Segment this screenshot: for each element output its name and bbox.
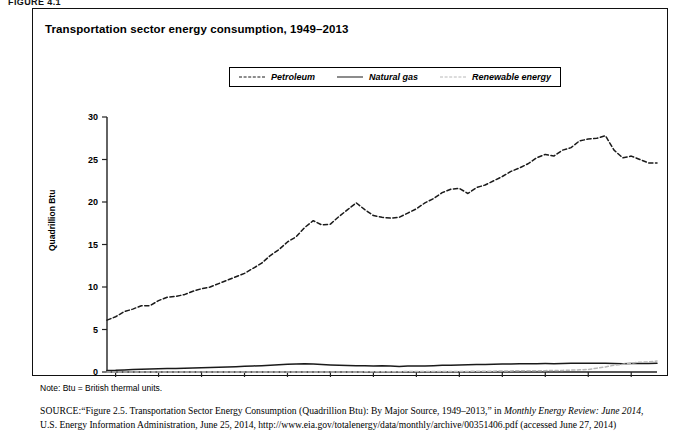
x-tick-label: 1965	[234, 380, 254, 381]
legend-item-natural-gas: Natural gas	[337, 72, 418, 82]
x-tick-label: 1950	[106, 380, 126, 381]
x-tick-label: 1970	[277, 380, 297, 381]
y-tick-label: 5	[93, 325, 98, 335]
y-axis-title: Quadrillion Btu	[47, 190, 57, 251]
x-tick-label: 1955	[149, 380, 169, 381]
legend-swatch-petroleum-icon	[239, 73, 265, 81]
legend-label-petroleum: Petroleum	[271, 72, 315, 82]
figure-box: Transportation sector energy consumption…	[32, 8, 668, 376]
series-line-petroleum	[107, 136, 657, 320]
y-tick-label: 20	[88, 197, 98, 207]
x-tick-label: 1995	[492, 380, 512, 381]
legend-swatch-renewable-energy-icon	[440, 73, 466, 81]
y-tick-label: 10	[88, 282, 98, 292]
legend-label-renewable-energy: Renewable energy	[472, 72, 551, 82]
x-tick-label: 2000	[535, 380, 555, 381]
x-tick-label: 2005	[578, 380, 598, 381]
legend-swatch-natural-gas-icon	[337, 73, 363, 81]
chart-source: SOURCE:“Figure 2.5. Transportation Secto…	[40, 404, 652, 431]
y-tick-label: 30	[88, 112, 98, 122]
figure-label: FIGURE 4.1	[8, 0, 61, 7]
x-tick-label: 1990	[449, 380, 469, 381]
x-tick-label: 2010	[621, 380, 641, 381]
chart-legend: Petroleum Natural gas Renewable energy	[229, 67, 561, 87]
source-text-1: “Figure 2.5. Transportation Sector Energ…	[81, 405, 504, 416]
y-tick-label: 15	[88, 240, 98, 250]
source-prefix: SOURCE:	[40, 405, 81, 416]
x-tick-label: 1960	[192, 380, 212, 381]
x-tick-label: 1975	[320, 380, 340, 381]
y-tick-label: 25	[88, 155, 98, 165]
legend-label-natural-gas: Natural gas	[369, 72, 418, 82]
chart-svg: 0510152025301950195519601965197019751980…	[61, 101, 661, 381]
plot-area: Quadrillion Btu 051015202530195019551960…	[61, 101, 661, 381]
chart-note: Note: Btu = British thermal units.	[40, 383, 162, 393]
x-tick-label: 1985	[406, 380, 426, 381]
chart-title: Transportation sector energy consumption…	[45, 23, 349, 35]
legend-item-renewable-energy: Renewable energy	[440, 72, 551, 82]
y-tick-label: 0	[93, 367, 98, 377]
x-tick-label: 1980	[363, 380, 383, 381]
legend-item-petroleum: Petroleum	[239, 72, 315, 82]
source-italic-1: Monthly Energy Review: June 2014	[504, 405, 641, 416]
